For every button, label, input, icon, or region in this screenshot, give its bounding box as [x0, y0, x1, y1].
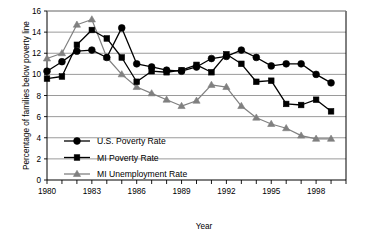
y-tick-label: 8	[36, 92, 41, 101]
data-point-marker	[119, 55, 125, 61]
data-point-marker	[74, 138, 81, 145]
chart-legend: U.S. Poverty RateMI Poverty RateMI Unemp…	[64, 136, 187, 179]
data-point-marker	[44, 68, 51, 75]
data-point-marker	[59, 74, 65, 80]
chart-container: Percentage of families below poverty lin…	[0, 0, 384, 239]
data-point-marker	[268, 78, 274, 84]
data-point-marker	[328, 79, 335, 86]
x-axis-title-text: Year	[196, 222, 213, 231]
data-point-marker	[103, 54, 110, 61]
data-point-marker	[89, 27, 95, 33]
legend-label: U.S. Poverty Rate	[97, 136, 166, 146]
data-point-marker	[88, 16, 95, 22]
data-point-marker	[208, 55, 215, 62]
data-point-marker	[134, 79, 140, 85]
chart-plot-svg: 0246810121416 19801983198619891992199519…	[0, 0, 384, 239]
x-tick-labels-group: 1980198319861989199219951998	[38, 187, 326, 196]
data-point-marker	[313, 71, 320, 78]
data-point-marker	[178, 68, 185, 75]
data-point-marker	[253, 54, 260, 61]
data-point-marker	[283, 101, 289, 107]
data-point-marker	[238, 47, 245, 54]
series-mi-poverty-rate	[44, 27, 334, 114]
data-point-marker	[193, 64, 200, 71]
data-point-marker	[298, 102, 304, 108]
x-tick-label: 1980	[38, 187, 57, 196]
y-tick-label: 2	[36, 155, 41, 164]
series-line	[47, 19, 331, 138]
x-tick-label: 1998	[307, 187, 326, 196]
data-point-marker	[328, 109, 334, 115]
x-axis-title: Year	[0, 222, 384, 231]
y-axis-title: Percentage of families below poverty lin…	[22, 11, 31, 181]
data-point-marker	[163, 67, 170, 74]
x-tick-label: 1992	[217, 187, 236, 196]
y-tick-label: 14	[32, 28, 42, 37]
x-tick-marks-group	[47, 180, 346, 184]
data-point-marker	[133, 60, 140, 67]
x-tick-label: 1995	[262, 187, 281, 196]
x-tick-label: 1989	[172, 187, 191, 196]
y-tick-label: 4	[36, 134, 41, 143]
data-point-marker	[298, 60, 305, 67]
y-tick-label: 6	[36, 113, 41, 122]
data-point-marker	[59, 58, 66, 65]
legend-item[interactable]: MI Poverty Rate	[64, 153, 159, 163]
data-point-marker	[104, 36, 110, 42]
legend-item[interactable]: MI Unemployment Rate	[64, 169, 187, 179]
data-point-marker	[74, 155, 80, 161]
data-point-marker	[254, 79, 260, 85]
data-point-marker	[74, 42, 80, 48]
data-point-marker	[74, 48, 81, 55]
data-series-group	[43, 16, 334, 142]
x-tick-label: 1986	[128, 187, 147, 196]
data-point-marker	[148, 64, 155, 71]
y-tick-labels-group: 0246810121416	[32, 7, 42, 185]
data-point-marker	[208, 81, 215, 87]
y-tick-label: 0	[36, 176, 41, 185]
series-line	[47, 30, 331, 111]
y-tick-label: 10	[32, 70, 42, 79]
legend-label: MI Poverty Rate	[97, 153, 159, 163]
data-point-marker	[283, 60, 290, 67]
data-point-marker	[58, 50, 65, 56]
data-point-marker	[118, 25, 125, 32]
data-point-marker	[223, 53, 230, 60]
y-tick-label: 16	[32, 7, 42, 16]
data-point-marker	[268, 63, 275, 70]
legend-label: MI Unemployment Rate	[97, 169, 187, 179]
data-point-marker	[88, 47, 95, 54]
data-point-marker	[44, 76, 50, 82]
data-point-marker	[239, 61, 245, 67]
gridlines-group	[44, 11, 346, 180]
x-tick-label: 1983	[83, 187, 102, 196]
data-point-marker	[313, 97, 319, 103]
y-tick-label: 12	[32, 49, 42, 58]
data-point-marker	[209, 69, 215, 75]
